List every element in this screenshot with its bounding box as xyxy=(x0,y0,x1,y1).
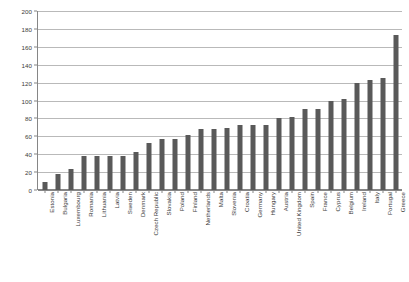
y-axis-tick-label: 120 xyxy=(21,79,32,86)
x-axis-label-slot: Poland xyxy=(168,192,181,280)
bar[interactable] xyxy=(380,78,385,190)
bar-slot xyxy=(116,11,129,190)
x-axis-label-slot: Latvia xyxy=(103,192,116,280)
bar[interactable] xyxy=(367,80,372,190)
x-axis-label-slot: Bulgaria xyxy=(51,192,64,280)
bar[interactable] xyxy=(354,83,359,190)
bar[interactable] xyxy=(315,109,320,190)
x-axis-label-slot: Slovenia xyxy=(220,192,233,280)
x-axis-label-slot: Romania xyxy=(77,192,90,280)
bar[interactable] xyxy=(263,125,268,190)
bar[interactable] xyxy=(133,152,138,190)
x-axis-label-slot: Finland xyxy=(181,192,194,280)
bar[interactable] xyxy=(341,99,346,190)
bar-slot xyxy=(311,11,324,190)
bar[interactable] xyxy=(224,128,229,190)
bar-chart: 200180160140120100806040200 EstoniaBulga… xyxy=(0,0,409,282)
bar[interactable] xyxy=(107,156,112,190)
x-axis-label-slot: Luxembourg xyxy=(64,192,77,280)
x-axis-label-slot: Slovakia xyxy=(155,192,168,280)
bar[interactable] xyxy=(120,156,125,190)
bar-slot xyxy=(233,11,246,190)
x-axis-label-slot: Greece xyxy=(389,192,402,280)
bar[interactable] xyxy=(237,125,242,190)
bar-slot xyxy=(285,11,298,190)
x-axis-label-slot: Lithuania xyxy=(90,192,103,280)
x-axis-label-slot: France xyxy=(311,192,324,280)
bar[interactable] xyxy=(94,156,99,190)
x-axis-label-slot: Spain xyxy=(298,192,311,280)
y-axis-tick-label: 80 xyxy=(25,115,32,122)
bar-slot xyxy=(376,11,389,190)
bar-slot xyxy=(155,11,168,190)
bar[interactable] xyxy=(146,143,151,190)
x-axis-label-slot: Hungary xyxy=(259,192,272,280)
x-axis-label-slot: Malta xyxy=(207,192,220,280)
bar[interactable] xyxy=(185,135,190,190)
bar-slot xyxy=(64,11,77,190)
bar[interactable] xyxy=(211,129,216,190)
y-axis-tick-label: 180 xyxy=(21,25,32,32)
bar[interactable] xyxy=(276,118,281,190)
bar-slot xyxy=(363,11,376,190)
y-axis: 200180160140120100806040200 xyxy=(0,0,37,191)
bar[interactable] xyxy=(289,117,294,190)
bar[interactable] xyxy=(302,109,307,190)
bar-slot xyxy=(350,11,363,190)
y-axis-tick-label: 40 xyxy=(25,151,32,158)
x-axis-label-slot: Ireland xyxy=(350,192,363,280)
bar[interactable] xyxy=(55,174,60,190)
y-axis-tick-label: 200 xyxy=(21,8,32,15)
bar-slot xyxy=(220,11,233,190)
x-axis-label-slot: Netherlands xyxy=(194,192,207,280)
y-axis-tick-label: 160 xyxy=(21,43,32,50)
y-axis-tick-label: 140 xyxy=(21,61,32,68)
y-axis-tick-label: 100 xyxy=(21,97,32,104)
bar-slot xyxy=(298,11,311,190)
bar-slot xyxy=(259,11,272,190)
bar-slot xyxy=(324,11,337,190)
bar-slot xyxy=(38,11,51,190)
y-axis-tick-label: 20 xyxy=(25,169,32,176)
bar[interactable] xyxy=(159,139,164,190)
bar-slot xyxy=(168,11,181,190)
x-axis: EstoniaBulgariaLuxembourgRomaniaLithuani… xyxy=(38,192,402,280)
bar-slot xyxy=(181,11,194,190)
bar-slot xyxy=(142,11,155,190)
x-axis-label-slot: Croatia xyxy=(233,192,246,280)
x-axis-label-slot: Denmark xyxy=(129,192,142,280)
x-axis-label-slot: Czech Republic xyxy=(142,192,155,280)
bar-slot xyxy=(246,11,259,190)
y-axis-tick-label: 0 xyxy=(28,187,32,194)
x-axis-label-slot: Belgium xyxy=(337,192,350,280)
bar[interactable] xyxy=(198,129,203,190)
bar-slot xyxy=(51,11,64,190)
bar[interactable] xyxy=(250,125,255,190)
bar-slot xyxy=(90,11,103,190)
bar-slot xyxy=(77,11,90,190)
x-axis-label-slot: Italy xyxy=(363,192,376,280)
y-axis-tick-label: 60 xyxy=(25,133,32,140)
bar-slot xyxy=(272,11,285,190)
bar[interactable] xyxy=(42,182,47,190)
bar[interactable] xyxy=(328,101,333,191)
bar-slot xyxy=(337,11,350,190)
x-axis-label-slot: Germany xyxy=(246,192,259,280)
x-axis-tick-label: Greece xyxy=(398,192,405,212)
x-axis-label-slot: Cyprus xyxy=(324,192,337,280)
x-axis-label-slot: Austria xyxy=(272,192,285,280)
x-axis-label-slot: Portugal xyxy=(376,192,389,280)
bar-slot xyxy=(129,11,142,190)
bar-slot xyxy=(194,11,207,190)
bar[interactable] xyxy=(81,156,86,190)
bar[interactable] xyxy=(68,169,73,190)
bar[interactable] xyxy=(393,35,398,190)
x-axis-label-slot: Estonia xyxy=(38,192,51,280)
bar-slot xyxy=(389,11,402,190)
bars-layer xyxy=(38,11,402,190)
bar-slot xyxy=(103,11,116,190)
bar-slot xyxy=(207,11,220,190)
x-axis-label-slot: Sweden xyxy=(116,192,129,280)
x-axis-label-slot: United Kingdom xyxy=(285,192,298,280)
bar[interactable] xyxy=(172,139,177,190)
